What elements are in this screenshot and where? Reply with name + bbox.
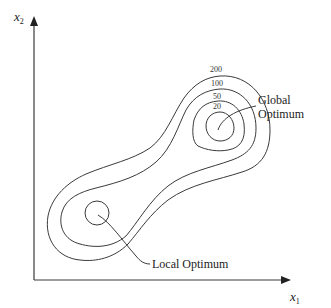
level-label-100: 100 [211, 80, 223, 88]
contour-200 [47, 76, 270, 261]
local-optimum-label: Local Optimum [152, 257, 228, 271]
level-label-200: 200 [210, 66, 222, 74]
level-label-20: 20 [213, 103, 221, 111]
global-optimum-line-2: Optimum [258, 107, 304, 121]
level-label-50: 50 [213, 93, 221, 101]
y-axis-label: x2 [14, 10, 24, 26]
contour-diagram: x2 x1 200 100 50 20 Global Optimum Local… [0, 0, 331, 308]
x-axis-label: x1 [290, 290, 300, 306]
global-optimum-line-1: Global [258, 93, 304, 107]
global-leader-line [218, 106, 256, 130]
y-axis-arrow-icon [30, 16, 38, 26]
global-optimum-label: Global Optimum [258, 93, 304, 121]
x-axis-arrow-icon [281, 276, 291, 284]
local-leader-line [98, 215, 150, 264]
